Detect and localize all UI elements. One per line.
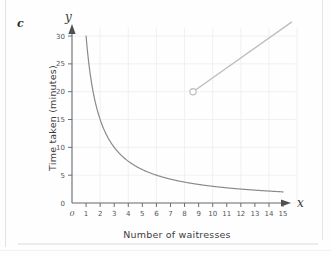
x-axis-symbol-label: x (297, 196, 304, 210)
x-tick-label: 2 (98, 210, 102, 218)
x-axis-title: Number of waitresses (123, 229, 231, 240)
y-tick-label: 30 (56, 33, 65, 41)
x-tick-label: 12 (236, 210, 245, 218)
x-tick-label: 5 (140, 210, 144, 218)
open-circle-marker (190, 89, 196, 95)
y-axis-symbol-label: y (64, 10, 72, 24)
x-tick-label: 0 (69, 209, 74, 218)
x-axis-tick-labels: 0123456789101112131415 (69, 209, 287, 218)
x-tick-label: 3 (112, 210, 116, 218)
x-axis-arrowhead (281, 199, 291, 206)
x-tick-label: 9 (196, 210, 200, 218)
x-tick-label: 13 (250, 210, 259, 218)
x-tick-label: 10 (208, 210, 217, 218)
x-tick-label: 4 (126, 210, 131, 218)
y-axis-arrowhead (68, 24, 75, 34)
x-tick-label: 1 (84, 210, 88, 218)
x-tick-label: 8 (182, 210, 186, 218)
grid-lines (72, 28, 297, 203)
y-axis-title: Time taken (minutes) (47, 65, 58, 172)
straight-line-segment (193, 22, 291, 92)
y-tick-label: 5 (61, 172, 65, 180)
chart-plot: 0123456789101112131415 051015202530 x y … (0, 0, 331, 257)
figure-canvas: c 0123456789101112131415 051015202530 x … (0, 0, 331, 257)
x-tick-label: 14 (265, 210, 274, 218)
x-tick-label: 11 (222, 210, 231, 218)
x-tick-label: 15 (279, 210, 288, 218)
y-tick-label: 0 (61, 200, 65, 208)
x-tick-label: 6 (154, 210, 159, 218)
x-tick-label: 7 (168, 210, 172, 218)
